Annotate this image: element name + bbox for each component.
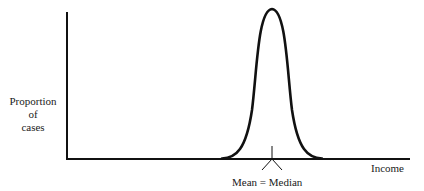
distribution-curve (222, 9, 322, 159)
y-axis-label: Proportion of cases (2, 95, 64, 134)
median-leader-line (272, 159, 282, 170)
y-axis-label-line-3: cases (2, 121, 64, 134)
y-axis-label-line-1: Proportion (2, 95, 64, 108)
mean-median-annotation: Mean = Median (232, 176, 302, 188)
y-axis-label-line-2: of (2, 108, 64, 121)
x-axis-label: Income (371, 162, 404, 174)
mean-leader-line (262, 159, 272, 170)
